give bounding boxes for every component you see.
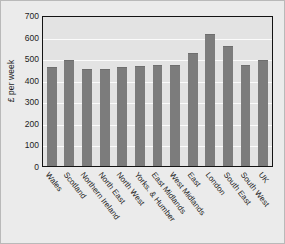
x-label-slot: North East bbox=[95, 169, 113, 243]
bar-slot bbox=[219, 17, 237, 166]
bar-slot bbox=[43, 17, 61, 166]
bar[interactable] bbox=[135, 66, 145, 166]
x-label-slot: London bbox=[202, 169, 220, 243]
bar[interactable] bbox=[100, 69, 110, 167]
y-axis-tick: 700 bbox=[25, 12, 39, 21]
bar[interactable] bbox=[117, 67, 127, 166]
bar[interactable] bbox=[188, 53, 198, 166]
bar-slot bbox=[113, 17, 131, 166]
x-label-slot: Wales bbox=[42, 169, 60, 243]
y-axis-tick: 200 bbox=[25, 120, 39, 129]
x-label-slot: South West bbox=[237, 169, 255, 243]
bar[interactable] bbox=[205, 34, 215, 166]
x-label-slot: East Midlands bbox=[149, 169, 167, 243]
y-axis-title-text: £ per week bbox=[6, 60, 16, 103]
x-label-slot: South East bbox=[220, 169, 238, 243]
bar-slot bbox=[149, 17, 167, 166]
bar[interactable] bbox=[241, 65, 251, 166]
y-axis-tick: 0 bbox=[34, 163, 39, 172]
bar-slot bbox=[201, 17, 219, 166]
bar-slot bbox=[237, 17, 255, 166]
x-label-slot: Yorks. & Humber bbox=[131, 169, 149, 243]
bar[interactable] bbox=[64, 60, 74, 166]
bar[interactable] bbox=[47, 67, 57, 166]
bar[interactable] bbox=[170, 65, 180, 166]
bar-slot bbox=[254, 17, 272, 166]
y-axis-tick: 400 bbox=[25, 76, 39, 85]
y-axis-tick: 100 bbox=[25, 141, 39, 150]
y-axis-tick: 500 bbox=[25, 55, 39, 64]
x-label-slot: North West bbox=[113, 169, 131, 243]
bar[interactable] bbox=[258, 60, 268, 166]
y-axis-tick: 600 bbox=[25, 33, 39, 42]
x-axis-tick-label: UK bbox=[257, 171, 270, 185]
y-axis-tick-labels: 7006005004003002001000 bbox=[18, 16, 41, 167]
bar[interactable] bbox=[153, 65, 163, 166]
x-label-slot: Northern Ireland bbox=[78, 169, 96, 243]
x-label-slot: East bbox=[184, 169, 202, 243]
x-label-slot: West Midlands bbox=[166, 169, 184, 243]
bar[interactable] bbox=[223, 46, 233, 166]
x-label-slot: UK bbox=[255, 169, 273, 243]
bar[interactable] bbox=[82, 69, 92, 167]
bar-slot bbox=[78, 17, 96, 166]
x-label-slot: Scotland bbox=[60, 169, 78, 243]
bar-slot bbox=[96, 17, 114, 166]
x-axis-tick-label: East bbox=[186, 171, 202, 189]
bar-slot bbox=[61, 17, 79, 166]
bar-slot bbox=[131, 17, 149, 166]
x-axis-tick-labels: WalesScotlandNorthern IrelandNorth EastN… bbox=[42, 169, 273, 243]
y-axis-tick: 300 bbox=[25, 98, 39, 107]
y-axis-title: £ per week bbox=[3, 1, 19, 161]
bar-chart-figure: £ per week 7006005004003002001000 WalesS… bbox=[0, 0, 285, 244]
bar-slot bbox=[166, 17, 184, 166]
plot-area bbox=[42, 16, 273, 167]
bar-slot bbox=[184, 17, 202, 166]
bar-series bbox=[43, 17, 272, 166]
